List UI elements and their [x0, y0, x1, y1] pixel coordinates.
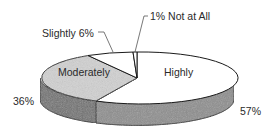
label-slightly: Slightly 6%	[42, 28, 94, 39]
label-not-at-all: 1% Not at All	[150, 11, 210, 22]
label-moderately: Moderately	[58, 67, 110, 78]
leader-line-slightly	[98, 32, 113, 52]
leader-line-not-at-all	[135, 16, 148, 52]
label-pct-highly: 57%	[240, 106, 261, 117]
pie-chart-3d	[0, 0, 266, 135]
label-highly: Highly	[164, 67, 193, 78]
label-pct-moderately: 36%	[13, 96, 34, 107]
